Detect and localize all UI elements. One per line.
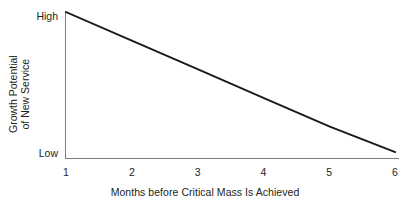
x-axis-title: Months before Critical Mass Is Achieved	[0, 186, 410, 198]
y-axis-title-line1: Growth Potential	[7, 55, 19, 133]
x-axis-tick-1: 1	[54, 166, 78, 178]
y-axis-tick-high: High	[0, 10, 58, 22]
y-axis-title: Growth Potential of New Service	[7, 29, 31, 159]
line-chart: High Low Growth Potential of New Service…	[0, 0, 410, 208]
x-axis-tick-3: 3	[186, 166, 210, 178]
x-axis-tick-6: 6	[383, 166, 407, 178]
y-axis-title-line2: of New Service	[19, 59, 31, 130]
x-axis-tick-4: 4	[251, 166, 275, 178]
data-line-growth-potential	[66, 12, 395, 152]
x-axis-tick-2: 2	[120, 166, 144, 178]
x-axis-tick-5: 5	[317, 166, 341, 178]
